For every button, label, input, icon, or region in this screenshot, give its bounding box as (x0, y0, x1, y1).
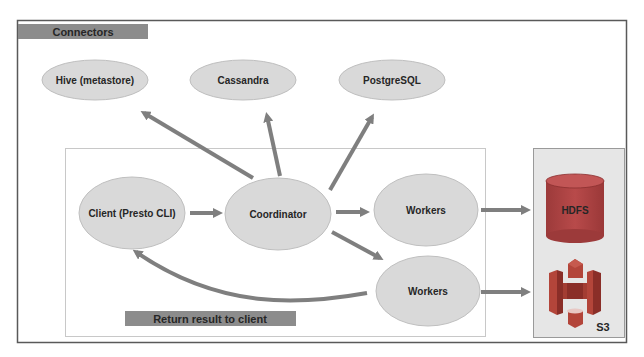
client-node[interactable]: Client (Presto CLI) (79, 177, 185, 249)
presto-architecture-diagram: Connectors Hive (metastore) Cassandra Po… (0, 0, 644, 357)
connector-label: PostgreSQL (363, 75, 421, 86)
workers-node-2[interactable]: Workers (376, 256, 480, 326)
connectors-header: Connectors (18, 24, 148, 39)
connectors-title: Connectors (52, 26, 113, 38)
client-label: Client (Presto CLI) (88, 208, 175, 219)
workers-node-1[interactable]: Workers (374, 174, 478, 246)
connector-node-hive[interactable]: Hive (metastore) (42, 60, 148, 100)
s3-label: S3 (596, 321, 609, 333)
connector-node-cassandra[interactable]: Cassandra (190, 60, 296, 100)
workers-label: Workers (406, 205, 446, 216)
coordinator-label: Coordinator (249, 209, 306, 220)
return-result-text: Return result to client (153, 313, 267, 325)
coordinator-node[interactable]: Coordinator (225, 178, 331, 250)
connector-label: Hive (metastore) (56, 75, 134, 86)
hdfs-storage[interactable]: HDFS (546, 174, 604, 243)
hdfs-label: HDFS (561, 205, 589, 216)
return-result-label: Return result to client (125, 311, 296, 326)
connector-label: Cassandra (217, 75, 269, 86)
workers-label: Workers (408, 286, 448, 297)
connector-node-postgresql[interactable]: PostgreSQL (339, 60, 445, 100)
